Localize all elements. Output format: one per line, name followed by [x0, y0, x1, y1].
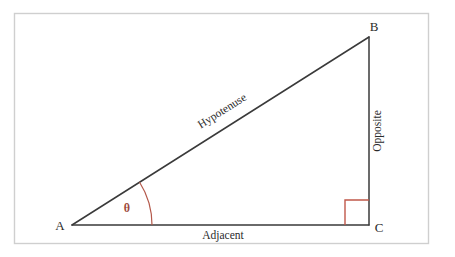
diagram-border [15, 14, 429, 244]
adjacent-label: Adjacent [202, 229, 244, 242]
vertex-label-b: B [370, 19, 379, 34]
diagram-canvas: A B C θ Hypotenuse Opposite Adjacent [0, 0, 455, 257]
theta-symbol: θ [124, 201, 130, 215]
opposite-label: Opposite [371, 110, 384, 152]
triangle-diagram: A B C θ Hypotenuse Opposite Adjacent [0, 0, 455, 257]
vertex-label-c: C [375, 220, 384, 235]
vertex-label-a: A [55, 218, 65, 233]
